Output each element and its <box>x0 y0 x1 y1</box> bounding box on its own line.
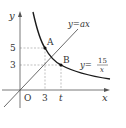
hyperbola-eq-lhs: y= <box>79 60 92 70</box>
y-tick-3: 3 <box>10 60 16 70</box>
hyperbola-eq-numerator: 15 <box>98 57 107 65</box>
line-eq-rhs: ax <box>80 19 90 29</box>
line-equation-label: y=ax <box>67 19 90 29</box>
point-b-label: B <box>63 55 70 65</box>
x-axis-label: x <box>102 92 108 103</box>
y-axis-label: y <box>8 10 15 21</box>
y-axis-arrow-icon <box>18 11 22 17</box>
x-tick-t: t <box>59 93 63 103</box>
y-tick-5: 5 <box>10 43 16 53</box>
origin-label: O <box>24 93 31 103</box>
line-eq-lhs: y= <box>67 19 80 29</box>
point-a-label: A <box>46 37 54 47</box>
hyperbola-eq-denominator: x <box>100 66 104 74</box>
x-tick-3: 3 <box>42 93 48 103</box>
coordinate-graph: y x O 5 3 3 t A B y=ax y= 15 x <box>0 0 126 128</box>
